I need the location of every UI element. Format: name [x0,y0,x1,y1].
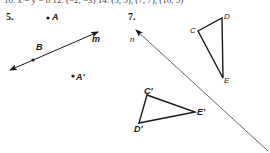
point-a-prime [71,74,74,77]
point-a [46,16,49,19]
line-n [136,30,268,151]
triangle-c-prime-d-prime-e-prime [139,95,195,123]
figure-canvas [0,0,270,153]
line-m [10,32,98,70]
triangle-cde [198,18,223,78]
point-b [31,58,34,61]
